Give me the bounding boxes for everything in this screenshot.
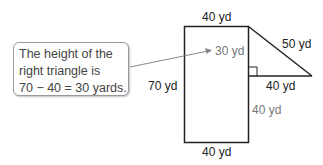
callout-line-3: 70 − 40 = 30 yards. (19, 80, 123, 97)
rect-left-label: 70 yd (148, 80, 177, 92)
triangle-height-label: 30 yd (215, 45, 244, 57)
callout-line-1: The height of the (19, 46, 123, 63)
rect-right-lower-label: 40 yd (252, 104, 281, 116)
triangle-base-label: 40 yd (266, 80, 295, 92)
rect-top-label: 40 yd (202, 11, 231, 23)
callout-line-2: right triangle is (19, 63, 123, 80)
callout-arrow (130, 51, 208, 67)
triangle-hypotenuse (249, 27, 313, 77)
hypotenuse-label: 50 yd (282, 38, 311, 50)
arrow-head-icon (205, 48, 212, 54)
explanation-callout: The height of the right triangle is 70 −… (13, 42, 129, 96)
right-angle-marker (249, 67, 258, 76)
rect-bottom-label: 40 yd (202, 146, 231, 158)
